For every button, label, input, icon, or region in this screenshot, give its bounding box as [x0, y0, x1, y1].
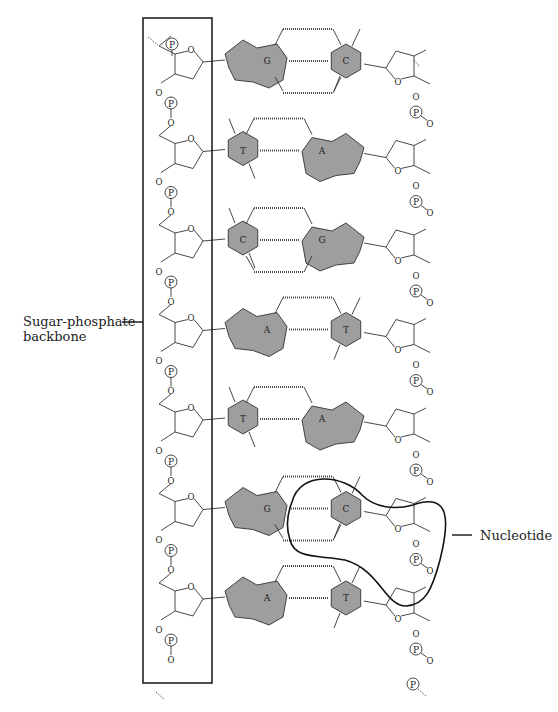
oxygen-atom: O — [188, 134, 195, 144]
oxygen-atom: O — [188, 403, 195, 413]
oxygen-atom: O — [156, 356, 163, 366]
dna-diagram: OOOPOOPOGCOOOPOOPOTAOOOPOOPOCGOOOPOOPOAT… — [0, 0, 558, 712]
oxygen-atom: O — [413, 629, 420, 639]
phosphate-label: P — [413, 197, 419, 207]
oxygen-atom: O — [413, 271, 420, 281]
base-pair-row: OOOPOOPOTA — [155, 387, 433, 487]
oxygen-atom: O — [413, 92, 420, 102]
oxygen-atom: O — [413, 450, 420, 460]
deoxyribose-sugar-left: O — [159, 126, 203, 173]
oxygen-atom: O — [156, 177, 163, 187]
deoxyribose-sugar-left: O — [159, 36, 203, 83]
phosphate-label: P — [413, 645, 419, 655]
oxygen-atom: O — [395, 166, 402, 176]
base-pair-row: OOOPOOPOAT — [155, 298, 433, 398]
phosphate-icon: P — [407, 678, 419, 690]
base-letter-left: G — [263, 56, 270, 66]
phosphate-label: P — [413, 108, 419, 118]
phosphate-icon: P — [410, 196, 422, 208]
phosphate-icon: P — [166, 38, 178, 50]
oxygen-atom: O — [395, 614, 402, 624]
purine-base — [225, 309, 287, 357]
oxygen-atom: O — [427, 298, 434, 308]
base-letter-left: C — [240, 235, 247, 245]
oxygen-atom: O — [188, 492, 195, 502]
phosphate-icon: P — [410, 285, 422, 297]
base-letter-right: A — [318, 414, 326, 424]
base-letter-left: T — [240, 146, 246, 156]
deoxyribose-sugar-left: O — [159, 394, 203, 441]
oxygen-atom: O — [413, 181, 420, 191]
purine-base — [225, 488, 287, 536]
phosphate-icon: P — [410, 375, 422, 387]
oxygen-atom: O — [427, 208, 434, 218]
base-letter-left: T — [240, 414, 246, 424]
phosphate-icon: P — [410, 464, 422, 476]
deoxyribose-sugar-right: O — [386, 319, 430, 356]
deoxyribose-sugar-left: O — [159, 484, 203, 531]
base-pair-row: OOOPOOPOAT — [155, 566, 433, 666]
phosphate-label: P — [168, 636, 174, 646]
base-pair-row: OOOPOOPOGC — [155, 477, 433, 577]
purine-base — [302, 223, 364, 271]
phosphate-icon: P — [165, 545, 177, 557]
base-pair-row: OOOPOOPOGC — [155, 29, 433, 129]
deoxyribose-sugar-right: O — [386, 408, 430, 445]
purine-base — [302, 134, 364, 182]
phosphate-icon: P — [165, 187, 177, 199]
oxygen-atom: O — [156, 88, 163, 98]
phosphate-icon: P — [165, 97, 177, 109]
purine-base — [225, 577, 287, 625]
phosphate-label: P — [413, 376, 419, 386]
deoxyribose-sugar-right: O — [386, 50, 430, 87]
oxygen-atom: O — [188, 224, 195, 234]
oxygen-atom: O — [395, 256, 402, 266]
nucleotide-outline — [287, 479, 445, 606]
oxygen-atom: O — [413, 539, 420, 549]
base-letter-left: A — [263, 325, 271, 335]
backbone-highlight-box — [143, 18, 212, 683]
base-letter-right: G — [318, 235, 325, 245]
oxygen-atom: O — [188, 45, 195, 55]
phosphate-icon: P — [410, 106, 422, 118]
base-letter-right: T — [343, 593, 349, 603]
phosphate-label: P — [168, 99, 174, 109]
phosphate-label: P — [410, 680, 416, 690]
deoxyribose-sugar-right: O — [386, 229, 430, 266]
base-letter-left: G — [263, 504, 270, 514]
oxygen-atom: O — [156, 535, 163, 545]
oxygen-atom: O — [427, 387, 434, 397]
base-letter-right: A — [318, 146, 326, 156]
oxygen-atom: O — [395, 77, 402, 87]
oxygen-atom: O — [395, 524, 402, 534]
oxygen-atom: O — [395, 435, 402, 445]
phosphate-label: P — [413, 555, 419, 565]
base-letter-right: C — [343, 504, 350, 514]
phosphate-label: P — [168, 546, 174, 556]
oxygen-atom: O — [156, 446, 163, 456]
phosphate-label: P — [168, 188, 174, 198]
purine-base — [302, 402, 364, 450]
phosphate-label: P — [168, 367, 174, 377]
oxygen-atom: O — [395, 345, 402, 355]
phosphate-icon: P — [165, 634, 177, 646]
phosphate-label: P — [169, 40, 175, 50]
oxygen-atom: O — [168, 655, 175, 665]
phosphate-icon: P — [410, 554, 422, 566]
deoxyribose-sugar-right: O — [386, 140, 430, 177]
oxygen-atom: O — [427, 566, 434, 576]
phosphate-icon: P — [165, 366, 177, 378]
phosphate-label: P — [413, 287, 419, 297]
phosphate-label: P — [413, 466, 419, 476]
deoxyribose-sugar-left: O — [159, 573, 203, 620]
base-letter-right: T — [343, 325, 349, 335]
nucleotide-label: Nucleotide — [480, 528, 552, 543]
base-pair-row: OOOPOOPOCG — [155, 208, 433, 308]
oxygen-atom: O — [413, 360, 420, 370]
phosphate-label: P — [168, 457, 174, 467]
oxygen-atom: O — [156, 267, 163, 277]
oxygen-atom: O — [427, 119, 434, 129]
deoxyribose-sugar-left: O — [159, 215, 203, 262]
phosphate-icon: P — [410, 643, 422, 655]
base-pair-row: OOOPOOPOTA — [155, 119, 433, 219]
